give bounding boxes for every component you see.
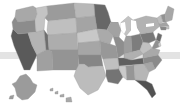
us-choropleth-map: AK HI bbox=[0, 0, 180, 110]
state-TX[interactable] bbox=[74, 64, 106, 95]
state-AK-aleutians[interactable] bbox=[9, 95, 14, 99]
state-KS[interactable] bbox=[78, 41, 101, 55]
state-WA[interactable] bbox=[15, 6, 37, 22]
map-canvas bbox=[0, 0, 180, 110]
state-HI-kauai[interactable] bbox=[50, 88, 53, 91]
state-MT[interactable] bbox=[45, 3, 76, 21]
state-CT[interactable] bbox=[160, 27, 166, 30]
state-MN[interactable] bbox=[94, 4, 111, 30]
state-CO[interactable] bbox=[48, 33, 78, 50]
state-AL[interactable] bbox=[126, 65, 135, 80]
state-AK[interactable] bbox=[12, 74, 37, 100]
state-NM[interactable] bbox=[49, 50, 79, 70]
state-IN[interactable] bbox=[124, 36, 132, 54]
state-HI-bigisland[interactable] bbox=[66, 97, 72, 102]
state-AR[interactable] bbox=[103, 58, 119, 70]
state-HI-oahu[interactable] bbox=[55, 91, 58, 94]
state-ME[interactable] bbox=[165, 6, 174, 22]
state-FL[interactable] bbox=[135, 80, 156, 98]
state-WY[interactable] bbox=[47, 18, 77, 35]
state-HI-maui[interactable] bbox=[60, 94, 64, 97]
state-ND[interactable] bbox=[74, 3, 95, 18]
